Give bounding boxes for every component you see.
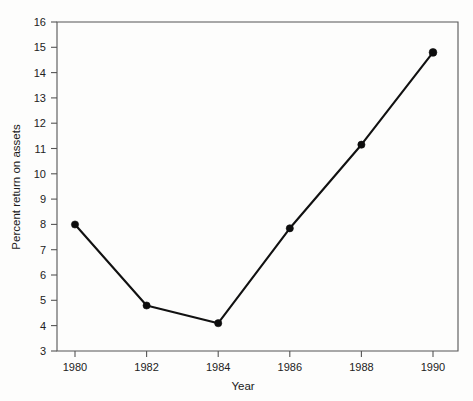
y-axis-title: Percent return on assets — [10, 124, 22, 250]
x-tick-label: 1984 — [206, 361, 230, 373]
data-point-1980 — [71, 221, 78, 228]
chart-figure: 16 15 14 13 12 11 — [0, 0, 473, 401]
x-tick-label: 1986 — [278, 361, 302, 373]
y-tick-label: 3 — [40, 345, 46, 357]
data-point-1990 — [429, 49, 437, 57]
y-tick-label: 6 — [40, 269, 46, 281]
y-tick-label: 14 — [34, 67, 46, 79]
data-point-1986 — [286, 225, 293, 232]
y-tick-label: 10 — [34, 168, 46, 180]
data-point-1988 — [358, 141, 365, 148]
y-tick-label: 12 — [34, 117, 46, 129]
y-tick-label: 8 — [40, 218, 46, 230]
y-tick-label: 13 — [34, 92, 46, 104]
data-point-1984 — [215, 320, 222, 327]
x-axis-title: Year — [231, 380, 254, 392]
y-tick-label: 9 — [40, 193, 46, 205]
y-tick-label: 16 — [34, 16, 46, 28]
x-tick-label: 1988 — [349, 361, 373, 373]
data-point-1982 — [143, 302, 150, 309]
chart-background — [0, 0, 473, 401]
y-tick-label: 5 — [40, 294, 46, 306]
x-tick-label: 1990 — [421, 361, 445, 373]
x-tick-label: 1980 — [63, 361, 87, 373]
x-tick-label: 1982 — [134, 361, 158, 373]
y-tick-label: 4 — [40, 320, 46, 332]
y-tick-label: 7 — [40, 244, 46, 256]
y-tick-label: 11 — [35, 143, 46, 155]
y-tick-label: 15 — [34, 41, 46, 53]
line-chart: 16 15 14 13 12 11 — [0, 0, 473, 401]
